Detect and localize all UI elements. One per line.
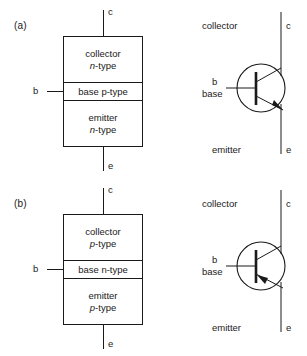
transistor-figure: (a) c b collector n-type base p-type emi…	[0, 0, 307, 356]
panel-a-symbol-base-label: base	[202, 88, 223, 99]
panel-a-symbol-emitter-label: emitter	[212, 144, 241, 155]
panel-b-emitter-terminal-label: e	[108, 338, 113, 349]
panel-b-region-collector-doping: p-type	[90, 238, 116, 250]
panel-b-region-base-name: base n-type	[78, 264, 128, 276]
panel-a-region-emitter-doping: n-type	[90, 124, 116, 136]
doping-suffix: -type	[95, 60, 116, 71]
panel-b-emitter-lead	[103, 325, 104, 349]
panel-b-base-terminal-label: b	[33, 263, 38, 274]
panel-a-block-stack: collector n-type base p-type emitter n-t…	[63, 36, 143, 147]
panel-a-region-collector-name: collector	[85, 48, 120, 60]
panel-b-symbol-emitter-terminal: e	[286, 322, 291, 333]
panel-b-symbol-base-label: base	[202, 266, 223, 277]
doping-suffix: -type	[95, 238, 116, 249]
panel-a-region-base-name: base p-type	[78, 86, 128, 98]
panel-a-symbol-emitter-terminal: e	[286, 144, 291, 155]
panel-a-collector-terminal-label: c	[108, 6, 113, 17]
panel-b-region-collector-name: collector	[85, 226, 120, 238]
panel-b-base-lead	[47, 269, 63, 270]
panel-a-collector-lead	[103, 10, 104, 36]
panel-b-collector-terminal-label: c	[108, 184, 113, 195]
doping-suffix: -type	[95, 124, 116, 135]
panel-a-base-lead	[47, 91, 63, 92]
panel-b-region-emitter-name: emitter	[88, 290, 117, 302]
panel-a-emitter-terminal-label: e	[108, 160, 113, 171]
panel-b-region-emitter-doping: p-type	[90, 302, 116, 314]
panel-a-region-collector-doping: n-type	[90, 60, 116, 72]
panel-a-emitter-lead	[103, 147, 104, 171]
panel-b-symbol-emitter-label: emitter	[212, 322, 241, 333]
panel-a-region-emitter-name: emitter	[88, 112, 117, 124]
panel-b-label: (b)	[14, 198, 27, 209]
panel-b-symbol: collector c b base emitter e	[195, 182, 307, 352]
panel-a-label: (a)	[14, 20, 27, 31]
panel-a-symbol-collector-terminal: c	[286, 20, 291, 31]
panel-b: (b) c b collector p-type base n-type emi…	[0, 178, 307, 356]
panel-b-collector-lead	[103, 188, 104, 214]
panel-b-region-collector: collector p-type	[64, 215, 142, 260]
panel-a-symbol-collector-label: collector	[202, 20, 237, 31]
panel-a-symbol: collector c b base emitter e	[195, 4, 307, 174]
panel-a-symbol-base-terminal: b	[212, 76, 217, 87]
panel-a-region-collector: collector n-type	[64, 37, 142, 82]
panel-b-symbol-collector-label: collector	[202, 198, 237, 209]
panel-a-base-terminal-label: b	[33, 85, 38, 96]
panel-b-block-stack: collector p-type base n-type emitter p-t…	[63, 214, 143, 325]
panel-a-region-base: base p-type	[64, 82, 142, 101]
panel-a: (a) c b collector n-type base p-type emi…	[0, 0, 307, 178]
panel-b-region-base: base n-type	[64, 260, 142, 279]
panel-a-region-emitter: emitter n-type	[64, 101, 142, 146]
panel-b-region-emitter: emitter p-type	[64, 279, 142, 324]
doping-suffix: -type	[95, 302, 116, 313]
panel-b-symbol-base-terminal: b	[212, 254, 217, 265]
panel-b-symbol-collector-terminal: c	[286, 198, 291, 209]
